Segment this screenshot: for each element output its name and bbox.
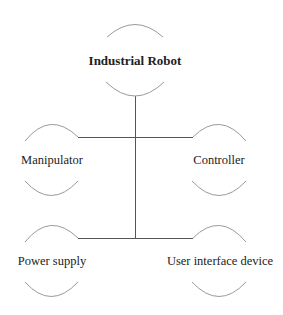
node-label-manipulator: Manipulator	[21, 153, 84, 167]
node-bottom-arc	[106, 82, 164, 96]
node-manipulator: Manipulator	[21, 124, 84, 195]
robot-components-diagram: Industrial Robot Manipulator Controller …	[0, 0, 283, 315]
node-user-interface-device: User interface device	[167, 225, 274, 296]
node-label-controller: Controller	[193, 153, 245, 167]
node-top-arc	[25, 124, 78, 141]
node-controller: Controller	[192, 124, 246, 195]
node-top-arc	[25, 225, 78, 242]
node-top-arc	[107, 25, 163, 38]
node-label-industrial-robot: Industrial Robot	[89, 53, 182, 68]
node-bottom-arc	[192, 181, 246, 196]
node-bottom-arc	[25, 282, 78, 297]
node-bottom-arc	[192, 282, 246, 297]
node-top-arc	[193, 124, 246, 141]
node-top-arc	[193, 225, 246, 242]
node-industrial-robot: Industrial Robot	[89, 25, 182, 97]
node-label-power-supply: Power supply	[18, 254, 87, 268]
node-label-user-interface-device: User interface device	[167, 254, 274, 268]
connectors	[78, 96, 193, 239]
node-power-supply: Power supply	[18, 225, 87, 296]
node-bottom-arc	[25, 181, 78, 196]
